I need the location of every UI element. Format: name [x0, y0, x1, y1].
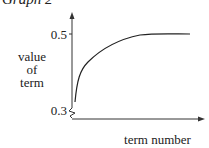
y-axis-arrow-icon: [70, 12, 75, 19]
data-curve: [75, 34, 190, 102]
y-tick-label-0-5: 0.5: [39, 28, 67, 41]
x-axis-label: term number: [110, 133, 205, 146]
axis-break-icon: [69, 108, 75, 118]
y-axis-label-line3: term: [2, 76, 62, 89]
y-tick-label-0-3: 0.3: [39, 104, 67, 117]
x-axis-arrow-icon: [198, 117, 205, 122]
